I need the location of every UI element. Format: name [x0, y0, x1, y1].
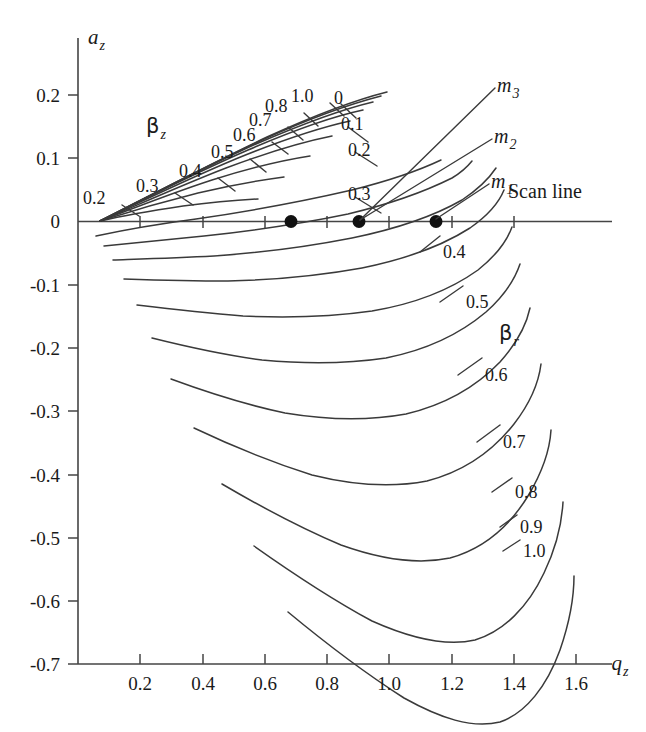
leader-beta-z-0.4 — [218, 178, 235, 191]
stability-diagram-figure: 0.2 0.4 0.6 0.8 1.0 1.2 1.4 1.6 0.2 0.1 … — [0, 0, 646, 732]
stability-diagram-canvas: 0.2 0.4 0.6 0.8 1.0 1.2 1.4 1.6 0.2 0.1 … — [0, 0, 646, 732]
beta-z-curves — [100, 92, 387, 221]
scan-line-label: Scan line — [508, 180, 582, 202]
leader-beta-r-1.0 — [503, 540, 520, 551]
marker-dot-m1 — [430, 215, 443, 228]
x-tick-label-6: 1.4 — [502, 673, 526, 694]
beta-z-label-0.4: 0.4 — [179, 161, 202, 181]
leader-m2 — [360, 139, 492, 220]
beta-r-curve-1.0 — [288, 576, 574, 724]
beta-r-label-0.1: 0.1 — [341, 114, 364, 134]
leader-m1 — [436, 184, 489, 219]
beta-r-curve-0.4 — [137, 227, 512, 317]
beta-z-label-0.8: 0.8 — [265, 96, 288, 116]
beta-r-label-0.7: 0.7 — [503, 432, 526, 452]
leader-beta-r-0.4 — [420, 236, 440, 252]
x-tick-label-0: 0.2 — [128, 673, 152, 694]
beta-r-curve-0.2 — [113, 168, 496, 260]
y-tick-label-7: -0.5 — [30, 528, 60, 549]
x-tick-label-1: 0.4 — [191, 673, 215, 694]
scan-line-group — [78, 216, 612, 228]
beta-r-label-1.0: 1.0 — [523, 541, 546, 561]
y-tick-label-6: -0.4 — [30, 465, 61, 486]
beta-z-label-0.2: 0.2 — [83, 188, 106, 208]
x-tick-labels: 0.2 0.4 0.6 0.8 1.0 1.2 1.4 1.6 — [128, 673, 588, 694]
leader-beta-r-0.9 — [500, 515, 517, 527]
beta-r-family-label: βr — [499, 321, 519, 349]
leader-beta-r-0.6 — [458, 358, 482, 375]
x-axis-title: qz — [612, 651, 630, 679]
beta-r-label-0.9: 0.9 — [520, 517, 543, 537]
leader-beta-r-0.5 — [440, 286, 463, 302]
mass-leader-lines — [360, 88, 495, 220]
beta-r-curve-0.3 — [124, 190, 504, 281]
y-axis-ticks — [68, 95, 78, 664]
y-tick-label-1: 0.1 — [36, 148, 60, 169]
beta-r-label-0.8: 0.8 — [515, 482, 538, 502]
y-tick-label-5: -0.3 — [30, 401, 60, 422]
y-axis-title: az — [88, 25, 106, 53]
y-tick-labels: 0.2 0.1 0 -0.1 -0.2 -0.3 -0.4 -0.5 -0.6 … — [30, 85, 61, 675]
y-tick-label-4: -0.2 — [30, 338, 60, 359]
beta-r-label-0.2: 0.2 — [348, 140, 371, 160]
marker-dot-m3 — [285, 215, 298, 228]
y-tick-label-9: -0.7 — [30, 654, 60, 675]
beta-z-label-0.3: 0.3 — [136, 176, 159, 196]
beta-r-label-0.4: 0.4 — [443, 242, 466, 262]
x-axis-ticks — [140, 654, 576, 664]
beta-r-label-0: 0 — [334, 88, 343, 108]
beta-z-label-1.0: 1.0 — [291, 86, 314, 106]
leader-beta-r-0.8 — [492, 478, 512, 492]
beta-r-contour-labels: 0 0.1 0.2 0.3 0.4 0.5 0.6 0.7 0.8 0.9 1.… — [334, 88, 546, 561]
y-tick-label-0: 0.2 — [36, 85, 60, 106]
y-tick-label-3: -0.1 — [30, 275, 60, 296]
beta-r-label-0.3: 0.3 — [348, 184, 371, 204]
x-tick-label-4: 1.0 — [377, 673, 401, 694]
beta-z-label-0.5: 0.5 — [211, 142, 234, 162]
x-tick-label-5: 1.2 — [440, 673, 464, 694]
y-tick-label-8: -0.6 — [30, 591, 60, 612]
beta-r-label-0.5: 0.5 — [466, 292, 489, 312]
x-tick-label-2: 0.6 — [253, 673, 277, 694]
mass-label-m3: m3 — [497, 74, 519, 101]
beta-z-family-label: βz — [146, 114, 166, 142]
x-tick-label-3: 0.8 — [315, 673, 339, 694]
y-tick-label-2: 0 — [51, 211, 61, 232]
leader-beta-r-0.7 — [477, 425, 500, 442]
leader-m3 — [360, 88, 495, 220]
x-tick-label-7: 1.6 — [564, 673, 588, 694]
mass-label-m2: m2 — [494, 125, 516, 152]
beta-r-curve-0.8 — [222, 430, 551, 561]
mass-labels: m3 m2 m1 — [491, 74, 519, 197]
beta-r-label-0.6: 0.6 — [485, 365, 508, 385]
beta-r-curve-0.6 — [171, 308, 530, 419]
